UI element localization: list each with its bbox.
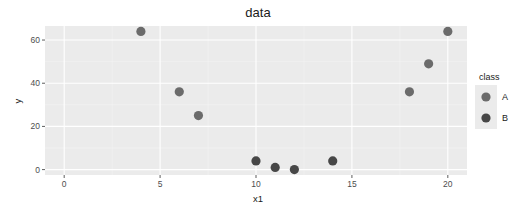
y-axis-title: y (12, 98, 23, 103)
y-axis: 0204060 (31, 35, 45, 175)
x-axis: 05101520 (62, 175, 453, 189)
point-class-a (405, 87, 414, 96)
x-tick-label: 15 (347, 179, 357, 189)
point-class-a (424, 59, 433, 68)
legend-title: class (479, 72, 500, 82)
y-tick-label: 20 (31, 121, 41, 131)
point-class-b (328, 156, 337, 165)
x-tick-label: 0 (62, 179, 67, 189)
legend-key-a (481, 92, 490, 101)
y-tick-label: 40 (31, 78, 41, 88)
legend: class AB (475, 72, 508, 129)
y-tick-label: 0 (35, 165, 40, 175)
y-tick-label: 60 (31, 35, 41, 45)
x-tick-label: 5 (158, 179, 163, 189)
point-class-b (271, 163, 280, 172)
legend-key-b (481, 113, 490, 122)
point-class-a (136, 27, 145, 36)
point-class-b (251, 156, 260, 165)
scatter-chart: data 05101520 0204060 x1 y class AB (0, 0, 531, 212)
point-class-b (290, 165, 299, 174)
plot-panel (45, 26, 467, 175)
legend-label-a: A (502, 92, 508, 102)
x-tick-label: 10 (251, 179, 261, 189)
point-class-a (194, 111, 203, 120)
x-axis-title: x1 (253, 193, 263, 204)
chart-title: data (245, 5, 271, 20)
point-class-a (175, 87, 184, 96)
x-tick-label: 20 (443, 179, 453, 189)
point-class-a (443, 27, 452, 36)
legend-label-b: B (502, 113, 508, 123)
